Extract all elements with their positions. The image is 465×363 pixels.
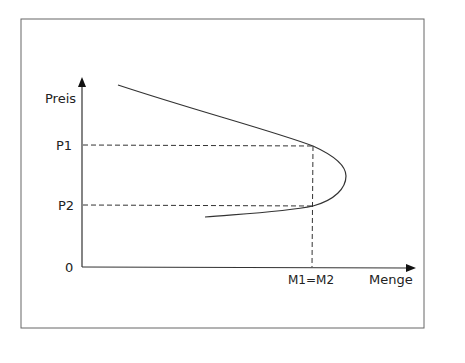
- x-axis-label: Menge: [369, 272, 413, 287]
- price-label-p2: P2: [58, 198, 74, 213]
- price-label-p1: P1: [56, 138, 72, 153]
- x-axis: [82, 267, 407, 268]
- p1-guide-line: [83, 145, 313, 146]
- p2-guide-line: [83, 205, 313, 206]
- backward-bending-supply-diagram: Preis P1 P2 0 M1=M2 Menge: [0, 0, 465, 363]
- quantity-label: M1=M2: [288, 273, 334, 287]
- y-axis-arrow-icon: [78, 77, 86, 87]
- origin-label: 0: [65, 260, 73, 275]
- supply-curve: [118, 85, 346, 217]
- x-axis-arrow-icon: [406, 264, 416, 272]
- y-axis-label: Preis: [45, 91, 76, 106]
